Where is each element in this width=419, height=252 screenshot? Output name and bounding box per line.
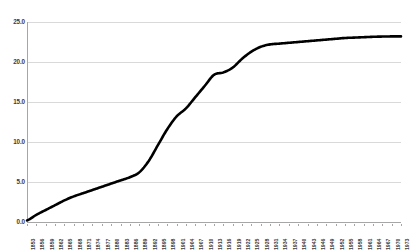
x-tick-mark	[195, 224, 196, 226]
x-tick-mark	[130, 224, 131, 226]
x-tick-mark	[36, 224, 37, 226]
x-tick-mark	[158, 224, 159, 226]
x-tick-mark	[149, 224, 150, 226]
x-tick-mark	[214, 224, 215, 226]
x-tick-mark	[139, 224, 140, 226]
x-tick-mark	[205, 224, 206, 226]
data-series-line	[27, 36, 401, 220]
x-tick-mark	[336, 224, 337, 226]
x-tick-mark	[270, 224, 271, 226]
x-tick-mark	[64, 224, 65, 226]
x-tick-mark	[186, 224, 187, 226]
x-tick-mark	[289, 224, 290, 226]
x-tick-mark	[298, 224, 299, 226]
x-tick-mark	[46, 224, 47, 226]
x-tick-mark	[27, 224, 28, 226]
x-tick-mark	[364, 224, 365, 226]
x-axis-labels: 1853185618591862186518681871187418771880…	[27, 224, 401, 252]
x-tick-mark	[223, 224, 224, 226]
x-tick-mark	[279, 224, 280, 226]
x-tick-mark	[55, 224, 56, 226]
series-line-layer	[0, 0, 419, 252]
x-tick-mark	[121, 224, 122, 226]
x-tick-mark	[242, 224, 243, 226]
x-tick-mark	[83, 224, 84, 226]
chart-container: 25.0 20.0 15.0 10.0 5.0 0.0 185318561859…	[0, 0, 419, 252]
x-tick-mark	[354, 224, 355, 226]
x-tick-mark	[308, 224, 309, 226]
x-tick-mark	[102, 224, 103, 226]
x-tick-mark	[317, 224, 318, 226]
x-tick-mark	[251, 224, 252, 226]
x-tick-label: 1973	[404, 243, 419, 250]
x-tick-mark	[74, 224, 75, 226]
x-tick-mark	[345, 224, 346, 226]
x-tick-mark	[382, 224, 383, 226]
x-tick-mark	[392, 224, 393, 226]
x-tick-mark	[92, 224, 93, 226]
x-tick-mark	[401, 224, 402, 226]
x-tick-mark	[326, 224, 327, 226]
x-tick-mark	[111, 224, 112, 226]
x-tick-mark	[233, 224, 234, 226]
x-tick-mark	[177, 224, 178, 226]
x-tick-mark	[373, 224, 374, 226]
x-tick-mark	[261, 224, 262, 226]
x-tick-mark	[167, 224, 168, 226]
